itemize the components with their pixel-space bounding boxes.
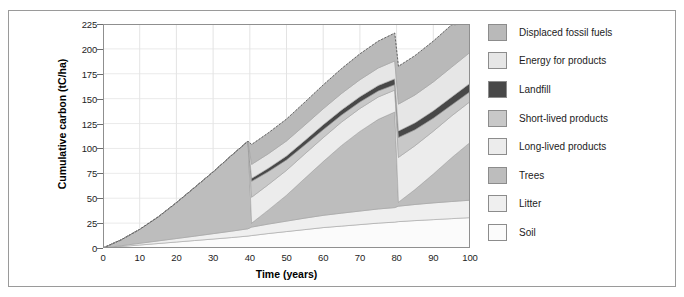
x-axis-title: Time (years) bbox=[103, 268, 470, 280]
legend-item[interactable]: Energy for products bbox=[488, 47, 668, 76]
legend-item-label: Soil bbox=[519, 227, 536, 238]
y-axis-tick-mark bbox=[97, 173, 103, 174]
plot-area bbox=[103, 24, 470, 248]
legend: Displaced fossil fuelsEnergy for product… bbox=[488, 18, 668, 247]
x-axis-tick-label: 80 bbox=[392, 252, 402, 263]
y-axis-title-holder: Cumulative carbon (tC/ha) bbox=[20, 56, 60, 216]
legend-swatch bbox=[488, 52, 507, 69]
legend-swatch bbox=[488, 167, 507, 184]
y-axis-tick-mark bbox=[97, 49, 103, 50]
y-axis-tick-labels: 0255075100125150175200225 bbox=[64, 24, 97, 248]
legend-swatch bbox=[488, 195, 507, 212]
x-axis-tick-label: 10 bbox=[135, 252, 145, 263]
x-axis-tick-label: 60 bbox=[318, 252, 328, 263]
chart-area: 0255075100125150175200225 Cumulative car… bbox=[0, 0, 684, 297]
legend-item[interactable]: Long-lived products bbox=[488, 132, 668, 161]
legend-item-label: Trees bbox=[519, 170, 544, 181]
y-axis-tick-mark bbox=[97, 24, 103, 25]
y-axis-tick-label: 175 bbox=[82, 68, 97, 79]
legend-swatch bbox=[488, 224, 507, 241]
y-axis-tick-mark bbox=[97, 124, 103, 125]
x-axis-tick-label: 90 bbox=[428, 252, 438, 263]
legend-item-label: Litter bbox=[519, 198, 541, 209]
y-axis-tick-mark bbox=[97, 248, 103, 249]
y-axis-tick-mark bbox=[97, 148, 103, 149]
x-axis-tick-label: 40 bbox=[245, 252, 255, 263]
legend-item-label: Energy for products bbox=[519, 55, 606, 66]
x-axis-tick-label: 50 bbox=[281, 252, 291, 263]
legend-item[interactable]: Short-lived products bbox=[488, 104, 668, 133]
legend-swatch bbox=[488, 81, 507, 98]
y-axis-tick-mark bbox=[97, 223, 103, 224]
legend-item[interactable]: Landfill bbox=[488, 75, 668, 104]
legend-swatch bbox=[488, 110, 507, 127]
y-axis-tick-mark bbox=[97, 74, 103, 75]
legend-item[interactable]: Displaced fossil fuels bbox=[488, 18, 668, 47]
legend-item[interactable]: Soil bbox=[488, 218, 668, 247]
stacked-area-plot bbox=[103, 24, 470, 248]
legend-swatch bbox=[488, 138, 507, 155]
y-axis-tick-mark bbox=[97, 99, 103, 100]
y-axis-tick-mark bbox=[97, 198, 103, 199]
y-axis-tick-label: 125 bbox=[82, 118, 97, 129]
x-axis-tick-label: 70 bbox=[355, 252, 365, 263]
legend-item[interactable]: Trees bbox=[488, 161, 668, 190]
legend-item-label: Displaced fossil fuels bbox=[519, 27, 612, 38]
legend-item-label: Long-lived products bbox=[519, 141, 606, 152]
y-axis-tick-label: 75 bbox=[87, 168, 97, 179]
legend-item-label: Short-lived products bbox=[519, 113, 608, 124]
x-axis-tick-label: 30 bbox=[208, 252, 218, 263]
y-axis-tick-label: 150 bbox=[82, 93, 97, 104]
y-axis-tick-label: 50 bbox=[87, 193, 97, 204]
x-axis-tick-label: 20 bbox=[171, 252, 181, 263]
x-axis-tick-label: 0 bbox=[100, 252, 105, 263]
y-axis-tick-label: 225 bbox=[82, 19, 97, 30]
legend-item-label: Landfill bbox=[519, 84, 551, 95]
x-axis-tick-label: 100 bbox=[462, 252, 477, 263]
y-axis-title: Cumulative carbon (tC/ha) bbox=[56, 44, 68, 204]
legend-item[interactable]: Litter bbox=[488, 190, 668, 219]
legend-swatch bbox=[488, 24, 507, 41]
y-axis-tick-label: 25 bbox=[87, 218, 97, 229]
y-axis-tick-label: 200 bbox=[82, 43, 97, 54]
x-axis-tick-labels: 0102030405060708090100 bbox=[103, 252, 470, 266]
y-axis-tick-label: 100 bbox=[82, 143, 97, 154]
